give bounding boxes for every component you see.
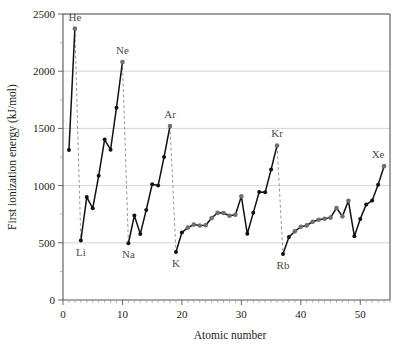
- data-point: [203, 223, 208, 228]
- data-point: [221, 211, 226, 216]
- data-point: [382, 164, 387, 169]
- element-label-na: Na: [122, 248, 135, 260]
- y-tick-label: 1500: [33, 122, 56, 134]
- element-label-ar: Ar: [164, 108, 176, 120]
- data-point: [156, 184, 160, 188]
- data-point: [85, 195, 89, 199]
- chart-svg: 0500100015002000250001020304050 HeNeArKr…: [0, 0, 412, 348]
- data-point: [364, 203, 368, 207]
- data-point: [257, 190, 261, 194]
- data-point: [144, 208, 148, 212]
- ionization-energy-chart: 0500100015002000250001020304050 HeNeArKr…: [0, 0, 412, 348]
- data-point: [215, 211, 220, 216]
- data-point: [322, 216, 327, 221]
- y-tick-label: 2000: [33, 65, 56, 77]
- data-point: [192, 222, 197, 227]
- data-point: [293, 229, 298, 234]
- data-point: [376, 183, 380, 187]
- element-label-ne: Ne: [116, 44, 129, 56]
- data-point: [370, 199, 374, 203]
- data-point: [233, 212, 238, 217]
- y-tick-label: 0: [50, 294, 56, 306]
- y-axis-title: First ionization energy (kJ/mol): [6, 84, 19, 230]
- x-tick-label: 20: [176, 308, 188, 320]
- data-point: [138, 232, 142, 236]
- element-label-rb: Rb: [277, 259, 290, 271]
- data-point: [269, 168, 273, 172]
- element-label-kr: Kr: [271, 127, 283, 139]
- data-point: [340, 214, 345, 219]
- x-tick-label: 50: [355, 308, 367, 320]
- data-point: [227, 213, 232, 218]
- data-point: [103, 138, 107, 142]
- data-point: [132, 214, 136, 218]
- data-point: [316, 217, 321, 222]
- x-tick-label: 40: [295, 308, 307, 320]
- y-tick-label: 2500: [33, 8, 56, 20]
- data-point: [150, 182, 154, 186]
- chart-background: [0, 0, 412, 348]
- data-point: [245, 232, 249, 236]
- data-point: [126, 241, 130, 245]
- data-point: [115, 106, 119, 110]
- data-point: [304, 223, 309, 228]
- data-point: [91, 206, 95, 210]
- y-tick-label: 500: [39, 237, 56, 249]
- data-point: [263, 190, 267, 194]
- element-label-he: He: [68, 11, 81, 23]
- x-tick-label: 10: [117, 308, 129, 320]
- data-point: [328, 215, 333, 220]
- data-point: [73, 26, 78, 31]
- element-label-xe: Xe: [372, 148, 385, 160]
- y-tick-label: 1000: [33, 180, 56, 192]
- data-point: [299, 224, 304, 229]
- data-point: [186, 225, 191, 230]
- element-label-k: K: [172, 257, 180, 269]
- data-point: [79, 239, 83, 243]
- data-point: [168, 124, 173, 129]
- data-point: [120, 60, 125, 65]
- x-axis-title: Atomic number: [194, 329, 267, 341]
- data-point: [180, 231, 184, 235]
- data-point: [287, 235, 291, 239]
- data-point: [275, 143, 280, 148]
- data-point: [310, 219, 315, 224]
- data-point: [162, 155, 166, 159]
- data-point: [352, 234, 356, 238]
- data-point: [209, 216, 214, 221]
- data-point: [67, 148, 71, 152]
- data-point: [97, 174, 101, 178]
- data-point: [281, 252, 285, 256]
- data-point: [346, 198, 351, 203]
- element-label-li: Li: [76, 246, 86, 258]
- data-point: [109, 148, 113, 152]
- x-tick-label: 30: [236, 308, 248, 320]
- data-point: [174, 250, 178, 254]
- data-point: [197, 223, 202, 228]
- data-point: [239, 194, 244, 199]
- data-point: [251, 211, 255, 215]
- data-point: [358, 217, 362, 221]
- data-point: [334, 206, 339, 211]
- x-tick-label: 0: [60, 308, 66, 320]
